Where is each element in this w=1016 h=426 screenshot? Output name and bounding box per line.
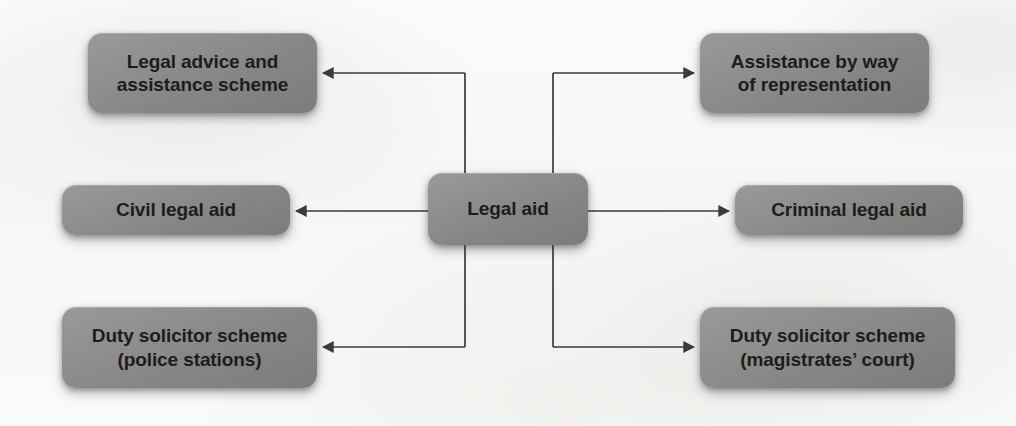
node-label: Legal aid	[457, 197, 558, 220]
node-duty-solicitor-scheme-police-stations[interactable]: Duty solicitor scheme (police stations)	[62, 307, 317, 388]
node-label: Legal advice and assistance scheme	[107, 50, 299, 96]
node-label: Duty solicitor scheme (police stations)	[82, 324, 297, 370]
diagram-canvas: Legal advice and assistance scheme Assis…	[0, 0, 1016, 426]
node-civil-legal-aid[interactable]: Civil legal aid	[62, 185, 290, 235]
node-assistance-by-way-of-representation[interactable]: Assistance by way of representation	[700, 33, 929, 113]
node-label: Criminal legal aid	[761, 198, 937, 221]
node-label: Civil legal aid	[106, 198, 246, 221]
node-label: Duty solicitor scheme (magistrates’ cour…	[720, 324, 935, 370]
node-legal-advice-and-assistance-scheme[interactable]: Legal advice and assistance scheme	[88, 33, 317, 113]
node-criminal-legal-aid[interactable]: Criminal legal aid	[735, 185, 963, 235]
node-label: Assistance by way of representation	[721, 50, 908, 96]
node-legal-aid-central[interactable]: Legal aid	[428, 173, 588, 245]
node-duty-solicitor-scheme-magistrates-court[interactable]: Duty solicitor scheme (magistrates’ cour…	[700, 307, 955, 388]
